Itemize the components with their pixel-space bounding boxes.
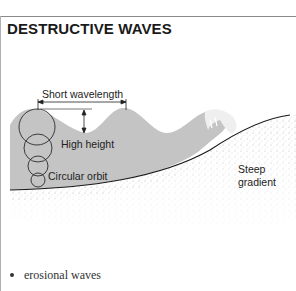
bullet-text: erosional waves [24, 268, 101, 282]
bullet-icon [10, 273, 14, 277]
label-high-height: High height [61, 138, 114, 150]
label-short-wavelength: Short wavelength [42, 88, 123, 100]
bullet-list: erosional waves [10, 268, 101, 283]
wavelength-arrow [38, 99, 126, 110]
label-steep: Steep [238, 163, 266, 175]
label-gradient: gradient [238, 176, 276, 188]
destructive-wave-diagram: Short wavelength High height Circular or… [0, 0, 296, 291]
label-circular-orbit: Circular orbit [48, 170, 108, 182]
